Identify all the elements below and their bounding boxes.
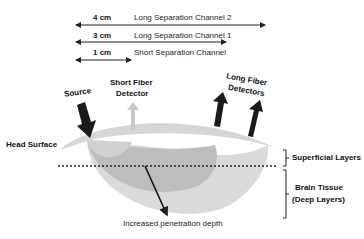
brain-tissue-label-1: Brain Tissue: [295, 183, 343, 192]
superficial-layers-label: Superficial Layers: [292, 153, 361, 162]
brain-tissue-label-2: (Deep Layers): [292, 195, 345, 204]
long-detector-arrow-1-icon: [213, 92, 228, 127]
brain-brace: [283, 170, 289, 218]
short-detector-label-2: Detector: [116, 89, 148, 98]
channel-4cm-distance: 4 cm: [93, 13, 111, 22]
channel-1cm-label: Short Separation Channel: [134, 48, 226, 57]
penetration-depth-label: Increased penetration depth: [123, 219, 223, 228]
channel-1cm-distance: 1 cm: [93, 48, 111, 57]
long-detector-arrow-2-icon: [248, 100, 263, 137]
channel-3cm-distance: 3 cm: [93, 31, 111, 40]
head-surface-label: Head Surface: [6, 140, 57, 149]
superficial-brace: [283, 150, 289, 166]
channel-3cm-label: Long Separation Channel 1: [134, 31, 231, 40]
channel-4cm-label: Long Separation Channel 2: [134, 13, 231, 22]
short-detector-label-1: Short Fiber: [110, 78, 153, 87]
